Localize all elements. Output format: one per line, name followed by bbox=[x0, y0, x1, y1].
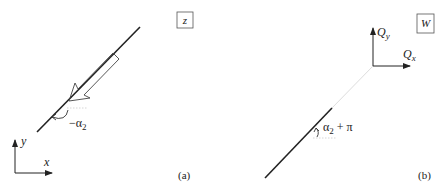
qy-axis-label: Qy bbox=[377, 25, 390, 41]
panel-b: α2 + π Qy Qx W (b) bbox=[265, 14, 434, 182]
x-axis-label: x bbox=[43, 155, 50, 169]
extension-line-b bbox=[332, 66, 373, 108]
y-axis-label: y bbox=[20, 134, 27, 148]
xy-axes: y x bbox=[15, 134, 52, 173]
q-axes: Qy Qx bbox=[373, 25, 416, 66]
diagram-canvas: −α2 z y x (a) α2 + π bbox=[0, 0, 444, 189]
flow-arrow-icon bbox=[69, 53, 119, 101]
flow-line-b bbox=[265, 108, 332, 178]
panel-a: −α2 z y x (a) bbox=[15, 12, 193, 182]
plane-label-z: z bbox=[182, 14, 188, 26]
qx-axis-label: Qx bbox=[403, 47, 416, 63]
plane-label-w: W bbox=[421, 17, 431, 29]
caption-b: (b) bbox=[418, 169, 431, 182]
angle-label-a: −α2 bbox=[69, 116, 87, 132]
caption-a: (a) bbox=[178, 169, 191, 182]
angle-label-b: α2 + π bbox=[323, 120, 353, 136]
